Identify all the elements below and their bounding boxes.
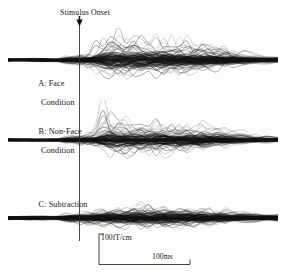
- meg-butterfly-figure: Stimulus Onset A: Face Condition B: Non-…: [0, 0, 284, 279]
- panel-b-label-line2: Condition: [30, 146, 82, 156]
- panel-c-label: C: Subtraction: [30, 190, 88, 219]
- panel-b-label: B: Non-Face Condition: [30, 117, 82, 175]
- panel-c-label-line1: C: Subtraction: [39, 200, 88, 209]
- panel-b-label-line1: B: Non-Face: [39, 127, 82, 136]
- vertical-scale-label: 100fT/cm: [101, 233, 132, 242]
- stimulus-onset-label: Stimulus Onset: [40, 8, 130, 17]
- panel-a-label-line1: A: Face: [38, 79, 64, 88]
- panel-a-label-line2: Condition: [30, 98, 75, 108]
- down-arrow-icon: [76, 16, 82, 27]
- horizontal-scale-label: 100ms: [152, 252, 173, 261]
